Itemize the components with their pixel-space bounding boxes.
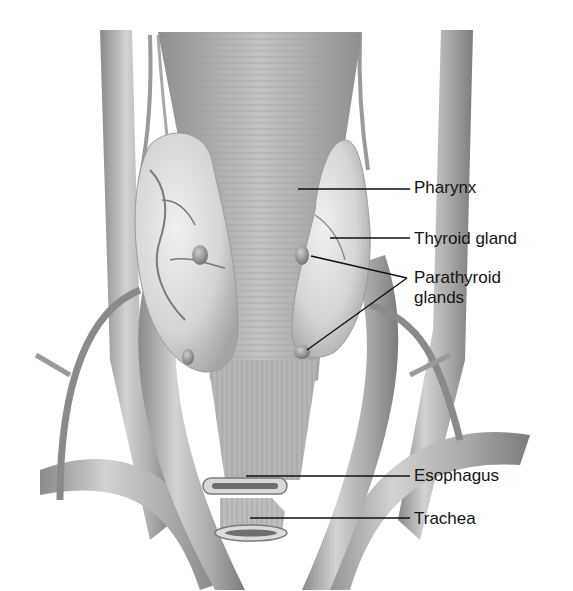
label-glands: glands <box>414 288 464 307</box>
anatomy-diagram: Pharynx Thyroid gland Parathyroid glands… <box>0 0 573 591</box>
esophagus <box>203 360 318 494</box>
trachea <box>215 498 287 541</box>
label-pharynx: Pharynx <box>414 178 476 197</box>
label-thyroid-gland: Thyroid gland <box>414 229 517 248</box>
label-esophagus: Esophagus <box>414 466 499 485</box>
illustration <box>0 0 573 591</box>
label-parathyroid: Parathyroid <box>414 268 501 287</box>
label-trachea: Trachea <box>414 509 476 528</box>
